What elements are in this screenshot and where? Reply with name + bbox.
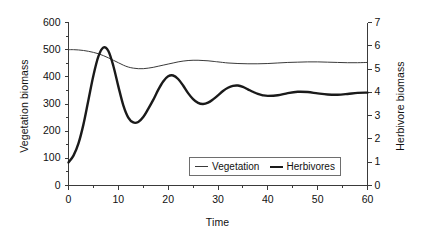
chart-figure: Vegetation biomass Herbivore biomass Tim… [0, 0, 424, 240]
legend-entry-herbivores: Herbivores [270, 161, 335, 172]
legend-swatch-icon [270, 166, 283, 168]
legend-label: Vegetation [212, 161, 259, 172]
legend-entry-vegetation: Vegetation [195, 161, 259, 172]
chart-legend: VegetationHerbivores [189, 157, 341, 176]
series-line-herbivores [69, 47, 368, 162]
data-series [69, 47, 368, 162]
legend-swatch-icon [195, 166, 208, 167]
plot-area [0, 0, 424, 240]
legend-label: Herbivores [287, 161, 335, 172]
